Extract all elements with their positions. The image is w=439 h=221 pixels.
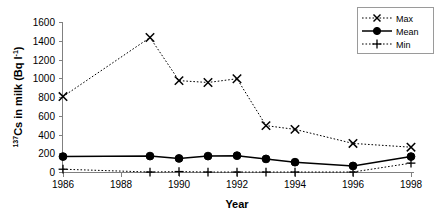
data-point[interactable]: [146, 33, 154, 41]
y-tick-label: 400: [38, 130, 55, 141]
x-tick-label: 1996: [342, 179, 365, 190]
x-tick-label: 1990: [168, 179, 191, 190]
y-tick-label: 1200: [33, 55, 56, 66]
data-point[interactable]: [262, 155, 270, 163]
svg-text:137Cs in milk (Bq l-1): 137Cs in milk (Bq l-1): [12, 46, 24, 147]
x-tick-label: 1998: [400, 179, 423, 190]
data-point[interactable]: [175, 155, 183, 163]
y-axis-title: 137Cs in milk (Bq l-1): [12, 46, 24, 147]
data-point[interactable]: [233, 152, 241, 160]
y-tick-label: 1400: [33, 36, 56, 47]
y-tick-label: 1600: [33, 17, 56, 28]
circle-marker-icon: [373, 27, 380, 34]
y-axis-tick-labels: 1600 1400 1200 1000 800 600 400 200 0: [33, 17, 56, 178]
x-tick-label: 1994: [284, 179, 307, 190]
y-axis-title-tail: ): [12, 46, 24, 50]
series-mean: [59, 152, 415, 170]
data-point[interactable]: [146, 152, 154, 160]
data-point[interactable]: [291, 158, 299, 166]
data-point[interactable]: [204, 152, 212, 160]
x-tick-label: 1986: [52, 179, 75, 190]
data-point[interactable]: [204, 168, 213, 177]
legend-label-mean: Mean: [396, 27, 419, 37]
data-point[interactable]: [233, 168, 242, 177]
data-point[interactable]: [59, 153, 67, 161]
y-axis-title-main: Cs in milk (Bq l: [12, 56, 24, 135]
series-min: [59, 159, 416, 177]
y-tick-label: 200: [38, 148, 55, 159]
y-tick-label: 1000: [33, 73, 56, 84]
chart-legend: Max Mean Min: [358, 8, 434, 54]
data-point[interactable]: [291, 168, 300, 177]
series-layer: [59, 33, 416, 176]
chart-container: 1600 1400 1200 1000 800 600 400 200 0 19…: [0, 0, 439, 221]
data-point[interactable]: [349, 139, 357, 147]
line-chart: 1600 1400 1200 1000 800 600 400 200 0 19…: [0, 0, 439, 221]
legend-label-min: Min: [396, 40, 411, 50]
data-point[interactable]: [407, 159, 416, 168]
x-tick-label: 1988: [110, 179, 133, 190]
y-tick-label: 600: [38, 111, 55, 122]
data-point[interactable]: [233, 75, 241, 83]
y-axis-title-sup-pre: 137: [12, 136, 19, 148]
data-point[interactable]: [262, 168, 271, 177]
data-point[interactable]: [175, 167, 184, 176]
x-tick-label: 1992: [226, 179, 249, 190]
y-tick-label: 0: [49, 167, 55, 178]
x-axis-tick-labels: 1986 1988 1990 1992 1994 1996 1998: [52, 179, 423, 190]
data-point[interactable]: [175, 76, 183, 84]
data-point[interactable]: [291, 125, 299, 133]
data-point[interactable]: [146, 168, 155, 177]
legend-label-max: Max: [396, 14, 414, 24]
x-axis-title: Year: [225, 198, 249, 210]
data-point[interactable]: [407, 143, 415, 151]
y-tick-label: 800: [38, 92, 55, 103]
